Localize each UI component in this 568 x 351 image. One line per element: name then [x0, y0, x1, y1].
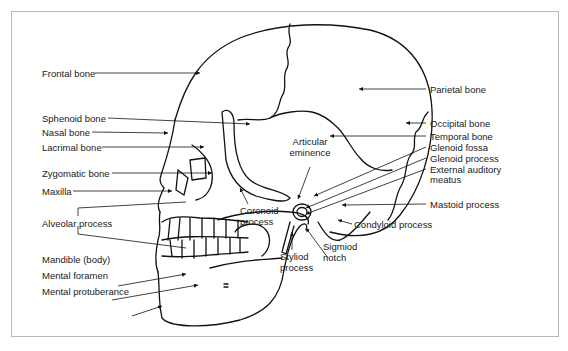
label-sigmoid: Sigmiod [323, 241, 357, 252]
label-condyloid-process: Condyloid process [354, 219, 432, 230]
label-eminence: eminence [285, 147, 335, 158]
label-coronoid-process: process [240, 216, 273, 227]
label-sigmoid-notch: notch [323, 252, 346, 263]
label-meatus: meatus [430, 174, 461, 185]
label-articular: Articular [285, 136, 335, 147]
label-maxilla: Maxilla [42, 186, 72, 197]
label-occipital-bone: Occipital bone [430, 118, 490, 129]
label-zygomatic-bone: Zygomatic bone [42, 168, 110, 179]
label-parietal-bone: Parietal bone [430, 84, 486, 95]
label-alveolar-process: Alveolar process [42, 218, 112, 229]
label-temporal-bone: Temporal bone [430, 131, 493, 142]
label-lacrimal-bone: Lacrimal bone [42, 142, 102, 153]
label-mastoid-process: Mastoid process [430, 199, 499, 210]
label-nasal-bone: Nasal bone [42, 127, 90, 138]
label-mandible-body: Mandible (body) [42, 254, 110, 265]
label-styloid-process: process [280, 262, 313, 273]
label-mental-foramen: Mental foramen [42, 270, 108, 281]
label-frontal-bone: Frontal bone [42, 68, 95, 79]
label-styloid: Styliod [280, 251, 309, 262]
label-mental-protuberance: Mental protuberance [42, 286, 129, 297]
label-coronoid: Coronoid [240, 205, 279, 216]
label-glenoid-fossa: Glenoid fossa [430, 142, 488, 153]
label-sphenoid-bone: Sphenoid bone [42, 113, 106, 124]
label-glenoid-process: Glenoid process [430, 153, 499, 164]
